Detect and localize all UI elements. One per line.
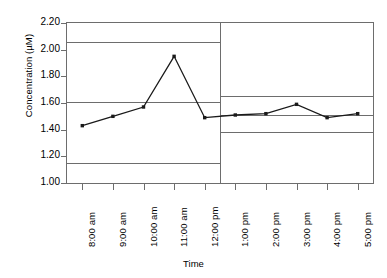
- data-point-marker: [234, 113, 237, 116]
- x-axis-tick-label: 1:00 pm: [239, 212, 250, 247]
- x-axis-tick-label: 9:00 am: [117, 212, 128, 247]
- y-axis-tick-label: 2.00: [26, 43, 60, 54]
- x-axis-tick-mark: [358, 184, 359, 190]
- x-axis-tick-label: 10:00 am: [148, 207, 159, 247]
- data-point-marker: [142, 105, 145, 108]
- x-axis-tick-label: 5:00 pm: [362, 212, 373, 247]
- x-axis-tick-label: 4:00 pm: [331, 212, 342, 247]
- series-polyline: [82, 56, 357, 125]
- data-point-marker: [325, 116, 328, 119]
- x-axis-tick-mark: [327, 184, 328, 190]
- x-axis-tick-mark: [174, 184, 175, 190]
- data-point-marker: [264, 112, 267, 115]
- x-axis-tick-mark: [297, 184, 298, 190]
- data-point-marker: [81, 124, 84, 127]
- plot-area: [66, 22, 374, 184]
- y-axis-tick-label: 1.00: [26, 176, 60, 187]
- x-axis-tick-label: 3:00 pm: [301, 212, 312, 247]
- x-axis-tick-mark: [205, 184, 206, 190]
- data-point-marker: [172, 55, 175, 58]
- data-point-marker: [356, 112, 359, 115]
- y-axis-tick-label: 1.80: [26, 69, 60, 80]
- y-axis-tick-label: 2.20: [26, 16, 60, 27]
- x-axis-tick-mark: [82, 184, 83, 190]
- x-axis-tick-mark: [113, 184, 114, 190]
- x-axis-title: Time: [0, 258, 387, 269]
- y-axis-tick-label: 1.40: [26, 123, 60, 134]
- y-axis-tick-label: 1.60: [26, 96, 60, 107]
- x-axis-tick-label: 2:00 pm: [270, 212, 281, 247]
- y-axis-tick-label: 1.20: [26, 149, 60, 160]
- x-axis-tick-label: 11:00 am: [178, 207, 189, 247]
- data-series-line: [67, 23, 373, 183]
- x-axis-tick-mark: [266, 184, 267, 190]
- x-axis-tick-mark: [144, 184, 145, 190]
- data-point-marker: [111, 115, 114, 118]
- data-point-marker: [203, 116, 206, 119]
- chart-figure: Concentration (µM) 1.001.201.401.601.802…: [0, 0, 387, 278]
- data-point-marker: [295, 103, 298, 106]
- x-axis-tick-label: 12:00 pm: [209, 207, 220, 247]
- x-axis-tick-mark: [235, 184, 236, 190]
- x-axis-tick-label: 8:00 am: [86, 212, 97, 247]
